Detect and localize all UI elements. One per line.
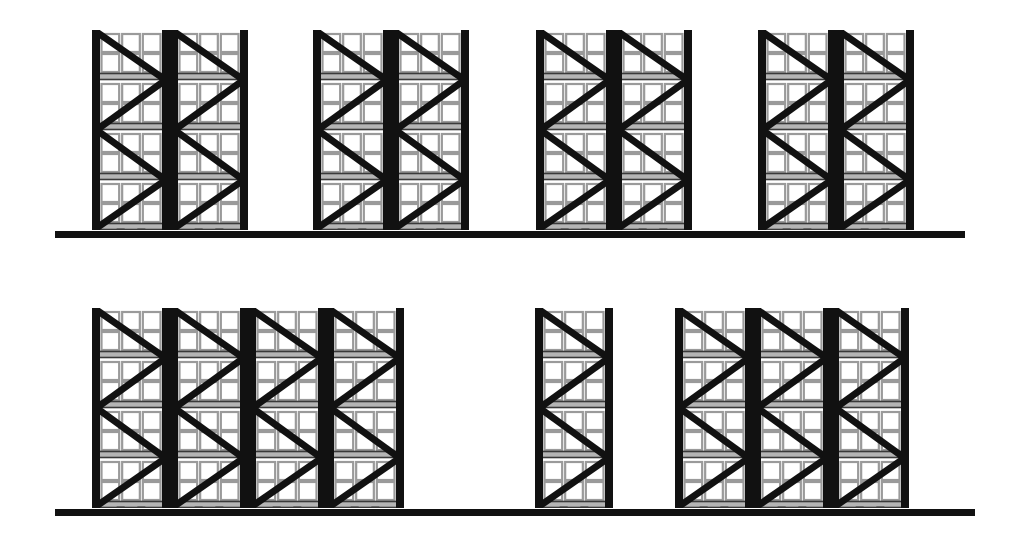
rack-bay [836, 30, 914, 230]
rack-bay [92, 30, 170, 230]
rack-bay [831, 308, 909, 508]
rack-bay [753, 308, 831, 508]
rack-bay [326, 308, 404, 508]
rack-bay [614, 30, 692, 230]
floor-line [55, 509, 975, 516]
rack-bay [170, 30, 248, 230]
rack-bay [248, 308, 326, 508]
floor-line [55, 231, 965, 238]
rack-bay [313, 30, 391, 230]
rack-bay [535, 308, 613, 508]
racking-elevation-drawing [0, 0, 1015, 537]
rack-bay [170, 308, 248, 508]
rack-bay [92, 308, 170, 508]
rack-bay [675, 308, 753, 508]
rack-bay [391, 30, 469, 230]
rack-bay [536, 30, 614, 230]
rack-bay [758, 30, 836, 230]
